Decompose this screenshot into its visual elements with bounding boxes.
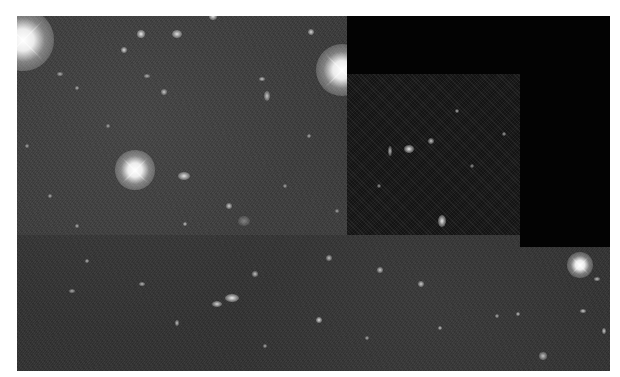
- low-signal-panel: [347, 74, 520, 235]
- galaxy: [365, 336, 369, 340]
- galaxy: [48, 194, 52, 198]
- galaxy: [377, 267, 383, 273]
- galaxy: [75, 224, 79, 228]
- galaxy: [137, 30, 145, 38]
- galaxy: [418, 281, 424, 287]
- galaxy: [438, 215, 446, 227]
- galaxy: [602, 328, 606, 334]
- galaxy: [226, 203, 232, 209]
- galaxy: [69, 289, 75, 293]
- galaxy: [263, 344, 267, 348]
- galaxy: [25, 144, 29, 148]
- galaxy: [139, 282, 145, 286]
- galaxy: [455, 109, 459, 113]
- galaxy: [121, 47, 127, 53]
- galaxy: [388, 146, 392, 156]
- galaxy: [428, 138, 434, 144]
- galaxy: [212, 301, 222, 307]
- galaxy: [516, 312, 520, 316]
- galaxy: [264, 91, 270, 101]
- galaxy: [238, 216, 250, 226]
- galaxy: [85, 259, 89, 263]
- missing-data-top: [347, 16, 610, 74]
- galaxy: [178, 172, 190, 180]
- galaxy: [259, 77, 265, 81]
- galaxy: [539, 352, 547, 360]
- galaxy: [580, 309, 586, 313]
- panel-noise: [347, 74, 520, 235]
- deep-field-image: [17, 16, 610, 371]
- lower-mosaic-band: [17, 235, 610, 371]
- galaxy: [225, 294, 239, 302]
- galaxy: [594, 277, 600, 281]
- missing-data-right: [520, 74, 610, 247]
- galaxy: [183, 222, 187, 226]
- galaxy: [283, 184, 287, 188]
- galaxy: [377, 184, 381, 188]
- galaxy: [326, 255, 332, 261]
- galaxy: [502, 132, 506, 136]
- galaxy: [316, 317, 322, 323]
- galaxy: [172, 30, 182, 38]
- galaxy: [438, 326, 442, 330]
- galaxy: [106, 124, 110, 128]
- galaxy: [144, 74, 150, 78]
- galaxy: [175, 320, 179, 326]
- galaxy: [75, 86, 79, 90]
- galaxy: [404, 145, 414, 153]
- galaxy: [470, 164, 474, 168]
- galaxy: [57, 72, 63, 76]
- galaxy: [308, 29, 314, 35]
- galaxy: [335, 209, 339, 213]
- galaxy: [161, 89, 167, 95]
- galaxy: [252, 271, 258, 277]
- galaxy: [495, 314, 499, 318]
- galaxy: [307, 134, 311, 138]
